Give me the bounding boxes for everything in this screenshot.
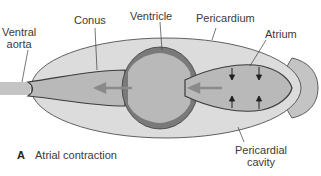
leader-pericardium (212, 28, 216, 40)
label-ventricle: Ventricle (130, 10, 172, 22)
leader-ventral-aorta (22, 50, 28, 82)
panel-letter: A (17, 149, 25, 161)
figure-caption: Atrial contraction (35, 149, 117, 161)
label-ventral-aorta: Ventral aorta (2, 26, 36, 50)
ventricle-lumen (128, 53, 192, 123)
label-pericardium: Pericardium (196, 12, 255, 24)
label-pericardial-cavity: Pericardial cavity (235, 144, 287, 168)
label-conus: Conus (74, 14, 106, 26)
label-atrium: Atrium (265, 28, 297, 40)
ventral-aorta (0, 82, 30, 95)
